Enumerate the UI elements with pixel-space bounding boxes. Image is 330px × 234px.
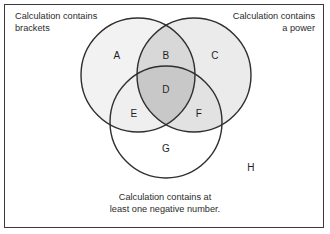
region-label-e: E <box>131 108 138 119</box>
set-label-brackets: Calculation contains brackets <box>15 10 165 35</box>
venn-fills <box>81 18 251 178</box>
region-label-h: H <box>247 162 254 173</box>
region-label-a: A <box>114 50 121 61</box>
region-label-b: B <box>163 50 170 61</box>
venn-diagram-page: Calculation contains brackets Calculatio… <box>0 0 330 234</box>
region-label-d: D <box>162 84 169 95</box>
region-label-c: C <box>211 50 218 61</box>
region-label-f: F <box>196 108 202 119</box>
region-label-g: G <box>162 143 170 154</box>
set-label-negative: Calculation contains at least one negati… <box>50 191 280 216</box>
set-label-power: Calculation contains a power <box>165 10 315 35</box>
